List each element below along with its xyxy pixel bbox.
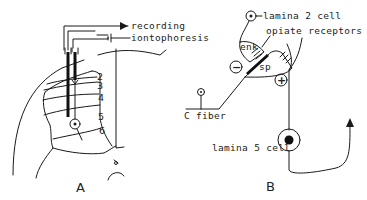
recording-arrow-icon <box>120 22 128 30</box>
lamina2-cell-label: lamina 2 cell <box>263 10 341 21</box>
neuron-dendrite <box>72 80 82 140</box>
projection-axon <box>289 125 350 173</box>
panel-b-label: B <box>266 179 275 194</box>
opiate-receptors-label: opiate receptors <box>266 25 362 36</box>
lamina-number-3: 3 <box>97 80 103 91</box>
ventral-curve <box>108 173 124 180</box>
panel-a-label: A <box>76 180 85 195</box>
lamina5-cell-label: lamina 5 cell <box>212 142 290 153</box>
sp-label: sp <box>259 61 271 72</box>
diagram-canvas: recording iontophoresis 2 3 4 5 6 A <box>0 0 367 200</box>
c-fiber-label: C fiber <box>184 110 226 121</box>
central-canal-icon <box>115 162 118 165</box>
panel-a <box>13 22 166 180</box>
lamina-number-4: 4 <box>98 92 104 103</box>
lamina2-axon <box>240 21 249 42</box>
postsynaptic-receptor-marks <box>280 52 291 63</box>
c-fiber-axon <box>186 77 245 109</box>
iontophoresis-label: iontophoresis <box>131 32 209 43</box>
lamina-boundary-lines <box>43 77 101 139</box>
spinal-cord-outline <box>13 49 166 175</box>
enk-label: enk <box>240 41 258 52</box>
projection-arrow-icon <box>346 118 354 127</box>
iontophoresis-wire <box>68 31 130 50</box>
lamina-number-5: 5 <box>98 111 104 122</box>
recording-label: recording <box>131 20 185 31</box>
opiate-receptors-leader <box>262 36 270 47</box>
excitation-sign: + <box>277 74 286 87</box>
lamina5-dendrite <box>287 38 302 130</box>
inhibition-sign: − <box>232 61 241 74</box>
lamina-number-6: 6 <box>99 125 105 136</box>
